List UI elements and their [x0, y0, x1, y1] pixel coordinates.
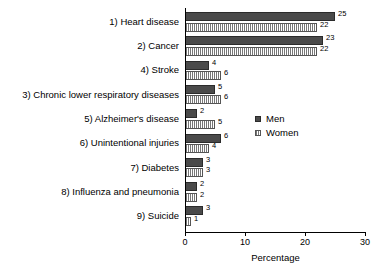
bar-men	[185, 158, 203, 167]
bar-value-label: 25	[338, 9, 346, 18]
bar-chart: 1) Heart disease2) Cancer4) Stroke3) Chr…	[0, 0, 391, 274]
x-axis-title: Percentage	[185, 252, 366, 263]
bar-value-label: 2	[200, 179, 204, 188]
bar-women	[185, 47, 317, 56]
bar-women	[185, 95, 221, 104]
bar-value-label: 4	[212, 141, 216, 150]
bar-women	[185, 193, 197, 202]
legend-swatch-women-icon	[255, 130, 261, 136]
bar-men	[185, 85, 215, 94]
bar-value-label: 1	[194, 214, 198, 223]
bar-value-label: 6	[224, 68, 228, 77]
category-label: 9) Suicide	[137, 211, 179, 221]
bar-women	[185, 144, 209, 153]
bar-women	[185, 120, 215, 129]
chart-legend: Men Women	[255, 112, 299, 140]
bar-value-label: 6	[224, 131, 228, 140]
category-label: 6) Unintentional injuries	[80, 138, 179, 148]
category-label: 3) Chronic lower respiratory diseases	[22, 90, 179, 100]
bar-men	[185, 36, 323, 45]
bar-value-label: 2	[200, 106, 204, 115]
category-axis-labels: 1) Heart disease2) Cancer4) Stroke3) Chr…	[0, 0, 182, 232]
legend-item-women: Women	[255, 126, 299, 140]
legend-label-men: Men	[266, 114, 284, 124]
legend-swatch-men-icon	[255, 116, 261, 122]
bar-men	[185, 109, 197, 118]
x-tick	[185, 232, 186, 236]
x-tick-label: 0	[182, 237, 187, 248]
x-axis-line	[185, 232, 366, 233]
bar-men	[185, 12, 335, 21]
category-label: 2) Cancer	[137, 41, 179, 51]
bar-value-label: 3	[206, 155, 210, 164]
bar-men	[185, 182, 197, 191]
x-tick-label: 30	[360, 237, 370, 248]
legend-item-men: Men	[255, 112, 299, 126]
bar-value-label: 3	[206, 203, 210, 212]
bar-women	[185, 23, 317, 32]
x-tick	[305, 232, 306, 236]
bar-men	[185, 61, 209, 70]
bar-value-label: 3	[206, 165, 210, 174]
bar-value-label: 22	[320, 44, 328, 53]
x-tick	[365, 232, 366, 236]
y-axis-line	[185, 8, 186, 233]
bar-women	[185, 71, 221, 80]
bar-value-label: 23	[326, 33, 334, 42]
x-tick-label: 20	[300, 237, 310, 248]
category-label: 4) Stroke	[140, 65, 179, 75]
legend-label-women: Women	[266, 128, 299, 138]
bar-value-label: 5	[218, 117, 222, 126]
x-tick-label: 10	[240, 237, 250, 248]
category-label: 1) Heart disease	[109, 17, 179, 27]
bar-value-label: 22	[320, 20, 328, 29]
bar-value-label: 6	[224, 92, 228, 101]
bar-women	[185, 168, 203, 177]
bar-value-label: 5	[218, 82, 222, 91]
category-label: 7) Diabetes	[130, 163, 179, 173]
x-tick	[245, 232, 246, 236]
category-label: 5) Alzheimer's disease	[84, 114, 179, 124]
bar-value-label: 2	[200, 190, 204, 199]
bar-value-label: 4	[212, 58, 216, 67]
category-label: 8) Influenza and pneumonia	[61, 187, 179, 197]
